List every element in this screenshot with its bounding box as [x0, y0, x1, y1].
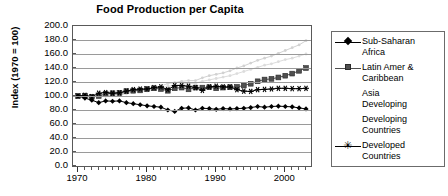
legend-entry[interactable]: Developing Countries [335, 114, 442, 139]
data-point-marker [283, 73, 288, 78]
data-point-marker [131, 101, 136, 106]
data-point-marker [276, 104, 281, 109]
chart-legend: Sub-Saharan AfricaLatin Amer & Caribbean… [331, 31, 445, 167]
x-minor-tick [257, 167, 258, 170]
legend-marker-star-icon: ✳ [335, 141, 361, 152]
y-axis-title: Index (1970 = 100) [9, 0, 20, 138]
data-point-marker [201, 76, 204, 79]
x-minor-tick [153, 167, 154, 170]
gridline [73, 68, 311, 69]
gridline [73, 152, 311, 153]
data-point-marker [290, 71, 295, 76]
data-point-marker [208, 74, 211, 77]
legend-marker-none-icon [335, 89, 361, 100]
x-minor-tick [188, 167, 189, 170]
data-point-marker [186, 87, 191, 92]
gridline [73, 54, 311, 55]
data-point-marker [269, 104, 274, 109]
data-point-marker [117, 98, 122, 103]
y-tick-label: 160.0 [24, 48, 68, 57]
data-point-marker [263, 64, 266, 67]
data-point-marker [289, 86, 295, 91]
x-minor-tick [181, 167, 182, 170]
x-minor-tick [208, 167, 209, 170]
legend-entry[interactable]: Asia Developing [335, 88, 442, 113]
legend-entry[interactable]: Sub-Saharan Africa [335, 36, 442, 61]
x-minor-tick [139, 167, 140, 170]
gridline [73, 40, 311, 41]
y-tick-mark [72, 165, 76, 166]
y-tick-mark [72, 109, 76, 110]
data-point-marker [255, 104, 260, 109]
data-point-marker [297, 68, 302, 73]
y-axis-tick-labels: 0.020.040.060.080.0100.0120.0140.0160.01… [22, 25, 68, 167]
data-point-marker [241, 83, 246, 88]
data-point-marker [298, 44, 301, 47]
data-point-marker [110, 99, 115, 104]
x-minor-tick [277, 167, 278, 170]
legend-label: Latin Amer & Caribbean [361, 62, 414, 83]
legend-label: Asia Developing [361, 88, 407, 109]
y-tick-mark [72, 39, 76, 40]
y-tick-label: 60.0 [24, 118, 68, 127]
legend-entry[interactable]: Latin Amer & Caribbean [335, 62, 442, 87]
legend-marker-glyph: ✳ [343, 141, 352, 150]
y-tick-label: 180.0 [24, 34, 68, 43]
x-minor-tick [174, 167, 175, 170]
data-point-marker [208, 79, 211, 82]
data-point-marker [282, 86, 288, 91]
data-point-marker [291, 46, 294, 49]
data-point-marker [242, 70, 245, 73]
legend-marker-glyph [345, 64, 351, 70]
y-tick-label: 80.0 [24, 104, 68, 113]
x-tick-label: 2000 [264, 172, 304, 183]
data-point-marker [96, 100, 101, 105]
data-point-marker [276, 75, 281, 80]
y-tick-mark [72, 95, 76, 96]
x-minor-tick [91, 167, 92, 170]
legend-label: Developed Countries [361, 140, 405, 161]
x-tick-label: 1970 [57, 172, 97, 183]
y-tick-label: 140.0 [24, 62, 68, 71]
data-point-marker [144, 103, 149, 108]
x-minor-tick [98, 167, 99, 170]
gridline [73, 96, 311, 97]
data-point-marker [229, 69, 232, 72]
data-point-marker [269, 76, 274, 81]
x-minor-tick [112, 167, 113, 170]
x-minor-tick [236, 167, 237, 170]
y-tick-label: 120.0 [24, 76, 68, 85]
y-tick-label: 40.0 [24, 132, 68, 141]
data-point-marker [270, 55, 273, 58]
x-minor-tick [298, 167, 299, 170]
y-tick-mark [72, 81, 76, 82]
series-asia-developing [77, 39, 308, 99]
x-minor-tick [222, 167, 223, 170]
data-point-marker [255, 87, 261, 92]
x-minor-tick [270, 167, 271, 170]
legend-marker-square-icon [335, 63, 361, 74]
data-point-marker [248, 89, 254, 94]
x-tick-label: 1990 [195, 172, 235, 183]
data-point-marker [268, 86, 274, 91]
gridline [73, 124, 311, 125]
x-minor-tick [194, 167, 195, 170]
data-point-marker [236, 72, 239, 75]
data-point-marker [241, 89, 247, 94]
legend-label: Sub-Saharan Africa [361, 36, 415, 57]
x-minor-tick [167, 167, 168, 170]
y-tick-mark [72, 25, 76, 26]
x-minor-tick [305, 167, 306, 170]
x-minor-tick [160, 167, 161, 170]
x-minor-tick [125, 167, 126, 170]
data-point-marker [284, 49, 287, 52]
x-tick-label: 1980 [126, 172, 166, 183]
y-tick-mark [72, 137, 76, 138]
legend-label: Developing Countries [361, 114, 407, 135]
legend-entry[interactable]: ✳Developed Countries [335, 140, 442, 165]
data-point-marker [275, 86, 281, 91]
data-point-marker [290, 104, 295, 109]
data-point-marker [229, 74, 232, 77]
data-point-marker [242, 65, 245, 68]
legend-marker-glyph [344, 37, 352, 45]
